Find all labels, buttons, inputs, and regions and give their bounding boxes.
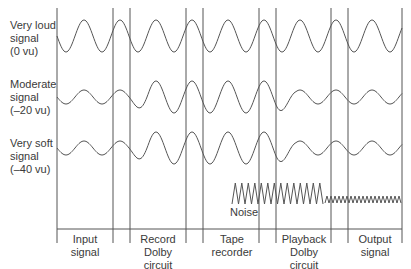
label-line: (0 vu) bbox=[10, 45, 56, 58]
dolby-diagram bbox=[0, 0, 411, 269]
row-label-moderate: Moderate signal (–20 vu) bbox=[10, 78, 56, 117]
label-line: circuit bbox=[274, 259, 334, 269]
label-line: signal bbox=[10, 91, 56, 104]
label-line: Very soft bbox=[10, 137, 53, 150]
label-line: Dolby bbox=[128, 246, 188, 259]
label-line: Tape bbox=[202, 233, 262, 246]
stage-label-input: Input signal bbox=[55, 233, 115, 259]
stage-label-output: Output signal bbox=[345, 233, 405, 259]
label-line: signal bbox=[10, 32, 56, 45]
label-line: circuit bbox=[128, 259, 188, 269]
noise-waveform bbox=[232, 183, 401, 204]
stage-label-tape-recorder: Tape recorder bbox=[202, 233, 262, 259]
stage-label-playback-dolby: Playback Dolby circuit bbox=[274, 233, 334, 269]
label-line: Record bbox=[128, 233, 188, 246]
label-line: signal bbox=[345, 246, 405, 259]
label-line: Input bbox=[55, 233, 115, 246]
label-line: recorder bbox=[202, 246, 262, 259]
label-line: signal bbox=[55, 246, 115, 259]
label-line: Output bbox=[345, 233, 405, 246]
label-line: Very loud bbox=[10, 19, 56, 32]
stage-label-record-dolby: Record Dolby circuit bbox=[128, 233, 188, 269]
label-line: Dolby bbox=[274, 246, 334, 259]
label-line: Moderate bbox=[10, 78, 56, 91]
noise-label: Noise bbox=[230, 206, 258, 218]
label-line: (–20 vu) bbox=[10, 104, 56, 117]
label-line: (–40 vu) bbox=[10, 163, 53, 176]
label-line: Playback bbox=[274, 233, 334, 246]
label-line: signal bbox=[10, 150, 53, 163]
signal-waves bbox=[57, 20, 402, 164]
row-label-loud: Very loud signal (0 vu) bbox=[10, 19, 56, 58]
row-label-soft: Very soft signal (–40 vu) bbox=[10, 137, 53, 176]
